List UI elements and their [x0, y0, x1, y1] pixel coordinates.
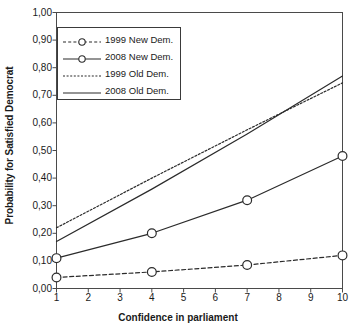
- x-axis-tick-label: 4: [142, 292, 162, 304]
- x-axis-tick-label: 10: [333, 292, 353, 304]
- x-axis-tick-label: 9: [301, 292, 321, 304]
- legend-label: 1999 Old Dem.: [102, 68, 169, 79]
- legend-item: 1999 Old Dem.: [62, 65, 180, 82]
- legend-key-1999-new-dem: [62, 34, 102, 46]
- x-axis-tick-label: 5: [174, 292, 194, 304]
- legend-item: 1999 New Dem.: [62, 31, 180, 48]
- data-point-marker: [147, 268, 156, 277]
- legend-label: 1999 New Dem.: [102, 34, 173, 45]
- legend-key-2008-old-dem: [62, 85, 102, 97]
- data-point-marker: [243, 196, 252, 205]
- data-point-marker: [52, 254, 61, 263]
- x-axis-title: Confidence in parliament: [0, 312, 356, 323]
- x-axis-tick-label: 7: [237, 292, 257, 304]
- legend-key-1999-old-dem: [62, 68, 102, 80]
- x-axis-tick-label: 8: [269, 292, 289, 304]
- x-axis-tick-label: 6: [205, 292, 225, 304]
- legend-label: 2008 Old Dem.: [102, 85, 169, 96]
- legend-item: 2008 New Dem.: [62, 48, 180, 65]
- chart-figure: Probability for Satisfied Democrat 0,000…: [0, 0, 356, 333]
- chart-legend: 1999 New Dem. 2008 New Dem. 1999 Old Dem…: [57, 27, 181, 100]
- x-axis-tick-label: 3: [110, 292, 130, 304]
- legend-item: 2008 Old Dem.: [62, 82, 180, 99]
- data-point-marker: [243, 261, 252, 270]
- data-point-marker: [338, 251, 347, 260]
- x-axis-tick-labels: 12345678910: [0, 292, 356, 308]
- series-line: [57, 255, 343, 277]
- legend-key-2008-new-dem: [62, 51, 102, 63]
- data-point-marker: [338, 152, 347, 161]
- data-point-marker: [52, 273, 61, 282]
- series-line: [57, 156, 343, 258]
- x-axis-tick-label: 2: [78, 292, 98, 304]
- x-axis-tick-label: 1: [47, 292, 67, 304]
- data-point-marker: [147, 229, 156, 238]
- series-line: [57, 83, 343, 228]
- legend-label: 2008 New Dem.: [102, 51, 173, 62]
